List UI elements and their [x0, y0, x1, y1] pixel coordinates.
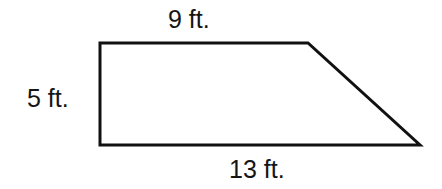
- dimension-label-bottom: 13 ft.: [229, 157, 285, 182]
- dimension-label-left: 5 ft.: [27, 86, 69, 111]
- geometry-figure: 9 ft. 5 ft. 13 ft.: [0, 0, 442, 189]
- trapezoid-outline: [100, 43, 420, 145]
- dimension-label-top: 9 ft.: [168, 7, 210, 32]
